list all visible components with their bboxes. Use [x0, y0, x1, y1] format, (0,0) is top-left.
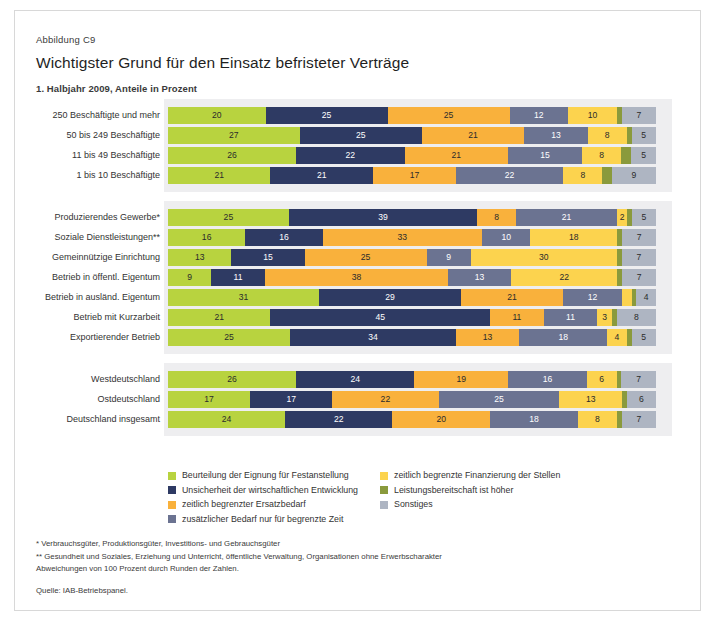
bar-segment-value: 15 [263, 253, 273, 262]
bar-segment-value: 21 [214, 171, 224, 180]
bar-segment-value: 20 [212, 111, 222, 120]
legend-column: Beurteilung der Eignung für Festanstellu… [168, 470, 358, 525]
chart-group-panel: 250 Beschäftigte und mehr2025251210750 b… [36, 99, 672, 192]
legend-item-label: Unsicherheit der wirtschaftlichen Entwic… [182, 485, 358, 496]
bar-segment-value: 5 [641, 151, 646, 160]
row-category-label: Gemeinnützige Einrichtung [36, 249, 160, 266]
figure-number: Abbildung C9 [36, 34, 675, 45]
bar-segment-value: 30 [539, 253, 549, 262]
bar-segment-value: 27 [229, 131, 239, 140]
legend-item[interactable]: Sonstiges [380, 499, 560, 510]
row-category-label: Ostdeutschland [36, 391, 160, 408]
legend-item[interactable]: Leistungsbereitschaft ist höher [380, 485, 560, 496]
bar-segment-value: 4 [615, 333, 620, 342]
bar-segment: 16 [508, 371, 587, 388]
chart-row: Ostdeutschland17172225136 [36, 391, 672, 408]
bar-segment: 26 [168, 147, 296, 164]
bar-segment-value: 21 [452, 151, 462, 160]
legend-item[interactable]: Beurteilung der Eignung für Festanstellu… [168, 470, 358, 481]
chart-row: Produzierendes Gewerbe*253982125 [36, 209, 672, 226]
chart-group: 250 Beschäftigte und mehr2025251210750 b… [36, 99, 672, 192]
bar-segment-value: 17 [286, 395, 296, 404]
bar-segment: 13 [168, 249, 231, 266]
bar-segment: 29 [319, 289, 461, 306]
legend-item-label: Beurteilung der Eignung für Festanstellu… [182, 470, 349, 481]
bar-segment-value: 7 [636, 415, 641, 424]
bar-segment: 21 [516, 209, 617, 226]
bar-segment: 8 [477, 209, 516, 226]
bar-segment-value: 15 [540, 151, 550, 160]
stacked-bar: 20252512107 [168, 107, 656, 124]
bar-segment-value: 11 [512, 313, 521, 322]
bar-segment: 13 [559, 391, 622, 408]
bar-segment: 26 [168, 371, 296, 388]
figure-page: Abbildung C9 Wichtigster Grund für den E… [0, 0, 715, 621]
bar-segment: 10 [482, 229, 530, 246]
bar-segment-value: 11 [566, 313, 575, 322]
figure-subtitle: 1. Halbjahr 2009, Anteile in Prozent [36, 83, 675, 94]
bar-segment: 21 [168, 167, 270, 184]
legend-swatch-icon [380, 472, 388, 480]
bar-segment: 8 [563, 167, 602, 184]
chart-row: Exportierender Betrieb2534131845 [36, 329, 672, 346]
figure-footnotes: * Verbrauchsgüter, Produktionsgüter, Inv… [36, 538, 636, 597]
bar-segment: 22 [332, 391, 438, 408]
bar-segment: 25 [168, 209, 289, 226]
bar-segment: 45 [270, 309, 490, 326]
bar-segment: 10 [568, 107, 617, 124]
stacked-bar: 9113813227 [168, 269, 656, 286]
bar-segment: 34 [290, 329, 456, 346]
bar-segment: 25 [300, 127, 422, 144]
bar-segment-value: 25 [444, 111, 454, 120]
bar-segment-value: 39 [378, 213, 388, 222]
legend-item[interactable]: zusätzlicher Bedarf nur für begrenzte Ze… [168, 514, 358, 525]
legend-swatch-icon [168, 515, 176, 523]
legend-swatch-icon [380, 486, 388, 494]
bar-segment: 8 [578, 411, 617, 428]
bar-segment-value: 17 [410, 171, 420, 180]
bar-segment: 22 [296, 147, 404, 164]
legend-item[interactable]: zeitlich begrenzte Finanzierung der Stel… [380, 470, 560, 481]
bar-segment: 7 [622, 229, 656, 246]
bar-segment: 6 [627, 391, 656, 408]
source-note: Quelle: IAB-Betriebspanel. [36, 585, 636, 598]
bar-segment-value: 25 [322, 111, 332, 120]
legend-item-label: zusätzlicher Bedarf nur für begrenzte Ze… [182, 514, 343, 525]
bar-segment-value: 4 [644, 293, 649, 302]
chart-group: Westdeutschland2624191667Ostdeutschland1… [36, 363, 672, 436]
bar-segment: 4 [607, 329, 627, 346]
row-category-label: 250 Beschäftigte und mehr [36, 107, 160, 124]
legend-item-label: Sonstiges [394, 499, 433, 510]
bar-segment: 21 [270, 167, 372, 184]
bar-segment: 15 [508, 147, 582, 164]
bar-segment-value: 31 [239, 293, 249, 302]
chart-row: Betrieb mit Kurzarbeit2145111138 [36, 309, 672, 326]
bar-segment: 11 [490, 309, 544, 326]
legend-item-label: zeitlich begrenzte Finanzierung der Stel… [394, 470, 560, 481]
stacked-bar: 2624191667 [168, 371, 656, 388]
bar-segment-value: 16 [202, 233, 212, 242]
legend-item[interactable]: zeitlich begrenzter Ersatzbedarf [168, 499, 358, 510]
bar-segment-value: 22 [505, 171, 515, 180]
bar-segment-value: 16 [543, 375, 553, 384]
bar-segment-value: 6 [599, 375, 604, 384]
bar-segment-value: 25 [356, 131, 366, 140]
bar-segment: 25 [266, 107, 388, 124]
chart-row: Deutschland insgesamt2422201887 [36, 411, 672, 428]
bar-segment-value: 21 [562, 213, 572, 222]
legend-swatch-icon [168, 501, 176, 509]
bar-segment-value: 13 [483, 333, 493, 342]
chart-row: Westdeutschland2624191667 [36, 371, 672, 388]
legend-swatch-icon [168, 486, 176, 494]
bar-segment: 7 [622, 107, 656, 124]
bar-segment: 16 [168, 229, 245, 246]
row-category-label: Deutschland insgesamt [36, 411, 160, 428]
bar-segment: 25 [439, 391, 560, 408]
bar-segment-value: 21 [507, 293, 517, 302]
stacked-bar: 2534131845 [168, 329, 656, 346]
stacked-bar: 253982125 [168, 209, 656, 226]
chart-row: Gemeinnützige Einrichtung1315259307 [36, 249, 672, 266]
bar-segment-value: 22 [334, 415, 344, 424]
legend-item[interactable]: Unsicherheit der wirtschaftlichen Entwic… [168, 485, 358, 496]
row-category-label: Betrieb in ausländ. Eigentum [36, 289, 160, 306]
